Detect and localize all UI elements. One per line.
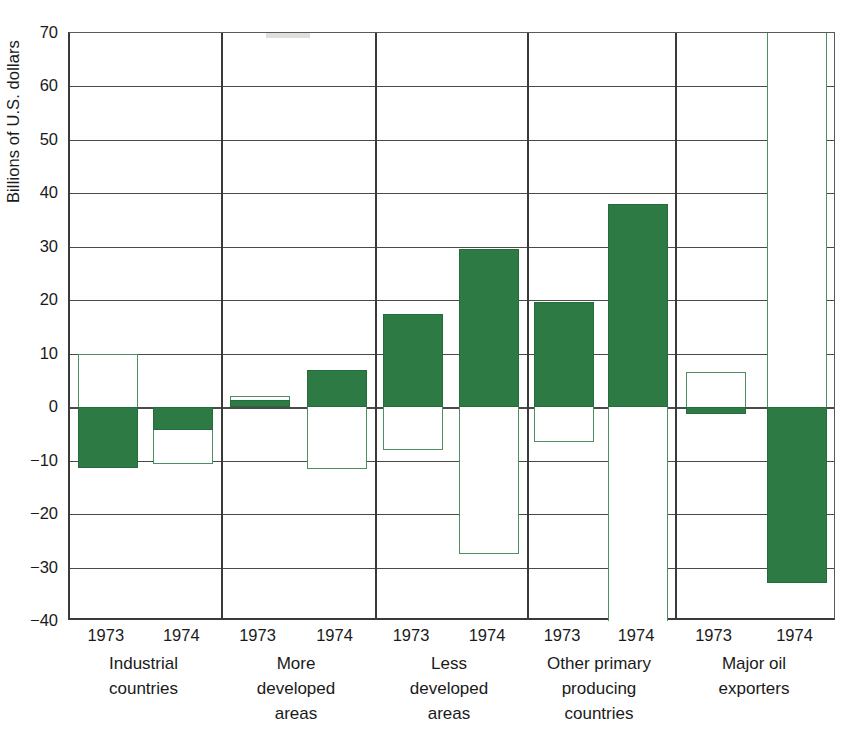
x-year-label: 1974	[141, 626, 221, 645]
y-tick-0: 0	[12, 398, 58, 414]
group-divider-2	[375, 33, 377, 618]
y-tick-40: 40	[12, 184, 58, 200]
x-year-label: 1973	[674, 626, 754, 645]
x-year-label: 1973	[522, 626, 602, 645]
group-divider-3	[527, 33, 529, 618]
x-year-label: 1974	[755, 626, 835, 645]
gridline-neg20	[70, 514, 834, 515]
y-tick-30: 30	[12, 238, 58, 254]
bar-more-developed-areas-1973-filled	[230, 400, 290, 407]
y-tick-neg40: −40	[12, 612, 58, 628]
bar-less-developed-areas-1974-filled	[459, 249, 519, 407]
y-tick-50: 50	[12, 131, 58, 147]
y-tick-70: 70	[12, 24, 58, 40]
bar-less-developed-areas-1973-filled	[383, 314, 443, 408]
x-year-label: 1974	[295, 626, 375, 645]
y-tick-neg30: −30	[12, 559, 58, 575]
bar-more-developed-areas-1974-open	[307, 407, 367, 468]
gridline-40	[70, 193, 834, 194]
x-group-label-line: exporters	[639, 676, 847, 701]
y-tick-10: 10	[12, 345, 58, 361]
bar-chart: Billions of U.S. dollars 706050403020100…	[0, 0, 847, 730]
bar-industrial-countries-1973-filled	[78, 407, 138, 467]
x-year-label: 1973	[66, 626, 146, 645]
gridline-20	[70, 300, 834, 301]
gridline-30	[70, 247, 834, 248]
bar-other-primary-producing-countries-1973-open	[534, 407, 594, 442]
x-year-label: 1973	[218, 626, 298, 645]
top-edge-artifact	[266, 33, 310, 38]
x-group-label-line: countries	[484, 701, 714, 726]
y-tick-60: 60	[12, 77, 58, 93]
bar-less-developed-areas-1974-open	[459, 407, 519, 554]
gridline-60	[70, 86, 834, 87]
bar-major-oil-exporters-1973-open	[686, 372, 746, 407]
bar-less-developed-areas-1973-open	[383, 407, 443, 450]
group-divider-1	[221, 33, 223, 618]
x-year-label: 1974	[596, 626, 676, 645]
group-divider-4	[675, 33, 677, 618]
y-tick-neg10: −10	[12, 452, 58, 468]
bar-more-developed-areas-1974-filled	[307, 370, 367, 407]
bar-other-primary-producing-countries-1973-filled	[534, 302, 594, 407]
y-tick-20: 20	[12, 291, 58, 307]
gridline-10	[70, 354, 834, 355]
x-year-label: 1973	[371, 626, 451, 645]
bar-industrial-countries-1973-open	[78, 354, 138, 407]
gridline-neg30	[70, 568, 834, 569]
bar-major-oil-exporters-1973-filled	[686, 407, 746, 413]
x-year-label: 1974	[447, 626, 527, 645]
y-tick-neg20: −20	[12, 505, 58, 521]
x-group-label: Major oilexporters	[639, 651, 847, 701]
bar-industrial-countries-1974-filled	[153, 407, 213, 430]
plot-area	[68, 32, 835, 620]
bar-other-primary-producing-countries-1974-filled	[608, 204, 668, 407]
x-group-label-line: Major oil	[639, 651, 847, 676]
bar-major-oil-exporters-1974-filled	[767, 407, 827, 582]
bar-major-oil-exporters-1974-open	[767, 33, 827, 407]
bar-other-primary-producing-countries-1974-open	[608, 407, 668, 621]
gridline-50	[70, 140, 834, 141]
